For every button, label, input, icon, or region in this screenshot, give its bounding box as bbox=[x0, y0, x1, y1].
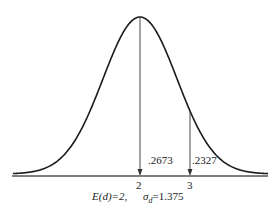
area-label-middle: .2673 bbox=[148, 155, 173, 166]
sd-caption: σd=1.375 bbox=[143, 191, 183, 206]
area-label-tail: .2327 bbox=[192, 155, 217, 166]
mean-caption: E(d)=2, bbox=[92, 191, 127, 202]
tick-label-2: 2 bbox=[136, 180, 142, 191]
normal-curve bbox=[13, 17, 268, 174]
x3-arrowhead bbox=[188, 169, 193, 176]
sd-value: =1.375 bbox=[152, 190, 183, 202]
mean-arrowhead bbox=[138, 169, 143, 176]
mean-text: E(d)=2, bbox=[92, 190, 127, 202]
tick-label-3: 3 bbox=[187, 180, 193, 191]
